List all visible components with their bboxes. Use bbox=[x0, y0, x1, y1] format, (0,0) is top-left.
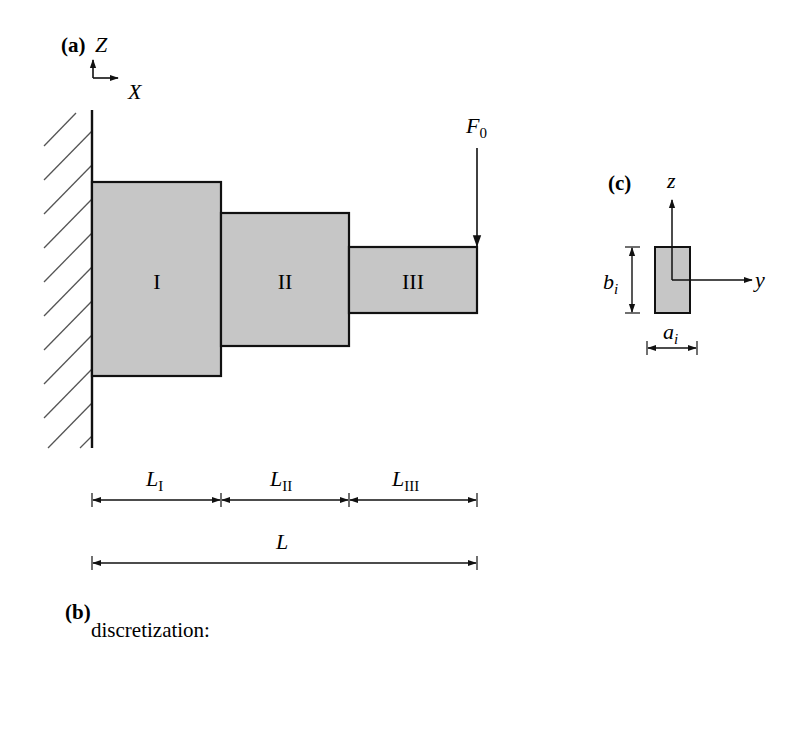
panel-c: (c) z y bi ai bbox=[603, 168, 765, 355]
segment-III-label: III bbox=[402, 269, 424, 294]
panel-a-label: (a) bbox=[61, 33, 86, 57]
segment-I-label: I bbox=[153, 269, 160, 294]
cross-section-z-label: z bbox=[666, 168, 676, 193]
panel-c-label: (c) bbox=[608, 171, 631, 195]
discretization-label: discretization: bbox=[91, 618, 210, 642]
beam-diagram: (a) Z X I II II bbox=[0, 0, 805, 729]
axis-z-label: Z bbox=[95, 32, 108, 57]
segment-dimensions: LI LII LIII bbox=[92, 466, 477, 507]
length-III-label: LIII bbox=[391, 466, 419, 494]
fixed-wall-hatching bbox=[44, 113, 92, 448]
width-dimension: ai bbox=[647, 319, 697, 355]
height-label: bi bbox=[603, 269, 618, 297]
cross-section-y-label: y bbox=[753, 267, 765, 292]
length-II-label: LII bbox=[269, 466, 292, 494]
panel-b-label: (b) bbox=[65, 600, 91, 624]
segment-II-label: II bbox=[278, 269, 293, 294]
axis-x-label: X bbox=[127, 79, 143, 104]
beam-segments: I II III bbox=[92, 182, 477, 376]
panel-a: (a) Z X I II II bbox=[44, 32, 487, 570]
force-arrow: F0 bbox=[465, 113, 487, 246]
total-length-label: L bbox=[275, 529, 288, 554]
panel-b: (b) discretization: bbox=[65, 600, 210, 642]
length-I-label: LI bbox=[145, 466, 163, 494]
total-length-dimension: L bbox=[92, 529, 477, 570]
force-label: F0 bbox=[465, 113, 487, 141]
height-dimension: bi bbox=[603, 247, 640, 313]
coordinate-axes-icon bbox=[93, 60, 118, 78]
width-label: ai bbox=[663, 319, 678, 347]
